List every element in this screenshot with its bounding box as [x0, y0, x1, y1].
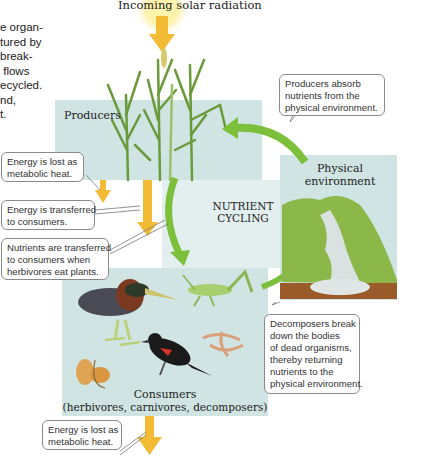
callout-energy-lost-top: Energy is lost as metabolic heat.: [1, 152, 84, 182]
consumers-label: Consumers: [62, 388, 268, 401]
earthworms-icon: [203, 332, 243, 356]
heron-bird-icon: [78, 279, 178, 345]
energy-lost-arrow-top-icon: [95, 180, 111, 203]
physical-environment-label: Physical environment: [290, 162, 390, 188]
solar-radiation-label: Incoming solar radiation: [118, 0, 262, 12]
grass-seedhead-icon: [161, 48, 167, 68]
producers-label: Producers: [64, 109, 121, 122]
blackbird-icon: [141, 333, 212, 376]
consumers-sublabel: (herbivores, carnivores, decomposers): [62, 401, 268, 413]
nutrient-arrow-environment-to-producers-icon: [222, 117, 305, 162]
callout-energy-lost-bottom: Energy is lost as metabolic heat.: [42, 420, 122, 450]
energy-transfer-arrow-icon: [137, 180, 158, 236]
nutrient-arrow-producers-to-consumers-icon: [169, 178, 190, 266]
callout-energy-transferred: Energy is transferred to consumers.: [1, 200, 95, 230]
callout-decomposers: Decomposers break down the bodies of dea…: [264, 314, 360, 394]
grassy-hill-icon: [282, 196, 397, 284]
grass-plants-icon: [108, 60, 226, 180]
mushrooms-icon: [76, 359, 110, 388]
callout-nutrients-transferred: Nutrients are transferred to consumers w…: [1, 238, 109, 280]
grasshopper-icon: [183, 272, 252, 306]
nutrient-cycling-label: NUTRIENT CYCLING: [208, 200, 278, 224]
callout-producers-absorb: Producers absorb nutrients from the phys…: [279, 74, 385, 116]
